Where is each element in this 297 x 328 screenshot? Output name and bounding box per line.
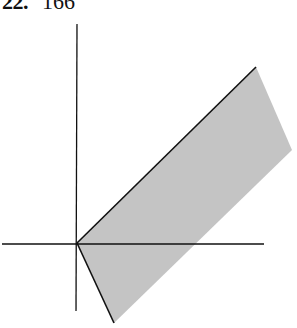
shaded-region	[77, 67, 292, 323]
region-diagram	[0, 0, 297, 328]
y-axis	[76, 24, 77, 311]
